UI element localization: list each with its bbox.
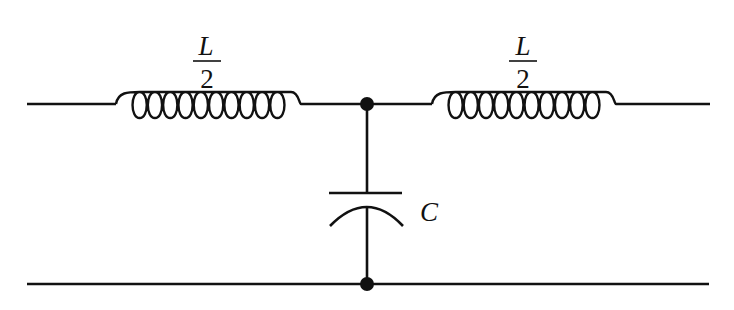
junction-dot-top bbox=[360, 97, 374, 111]
label-denominator: 2 bbox=[200, 64, 214, 94]
label-numerator: L bbox=[514, 31, 530, 61]
label-numerator: L bbox=[197, 31, 213, 61]
capacitor-label: C bbox=[420, 197, 439, 227]
inductor-left-label: L 2 bbox=[193, 31, 221, 94]
junction-dot-bottom bbox=[360, 277, 374, 291]
inductor-left bbox=[116, 92, 301, 118]
coil-path bbox=[432, 92, 616, 118]
coil-path bbox=[116, 92, 301, 118]
inductor-right bbox=[432, 92, 616, 118]
inductor-right-label: L 2 bbox=[509, 31, 537, 94]
circuit-diagram: L 2 L 2 C bbox=[0, 0, 734, 310]
label-denominator: 2 bbox=[516, 64, 530, 94]
